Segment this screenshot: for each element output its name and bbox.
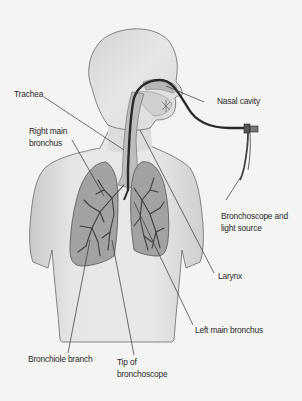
- label-nasal-cavity: Nasal cavity: [217, 95, 260, 107]
- label-left-main-bronchus: Left main bronchus: [195, 324, 263, 336]
- bronchoscopy-diagram: Trachea Right main bronchus Nasal cavity…: [0, 0, 302, 401]
- label-tip-of-bronchoscope-line1: Tip of: [117, 356, 137, 368]
- label-bronchoscope-line2: light source: [221, 222, 262, 234]
- bronchoscope-handle: [240, 124, 258, 180]
- label-trachea: Trachea: [14, 88, 43, 100]
- label-right-main-bronchus-line1: Right main: [29, 125, 67, 137]
- label-bronchiole-branch: Bronchiole branch: [28, 353, 92, 365]
- label-tip-of-bronchoscope-line2: bronchoscope: [117, 368, 167, 380]
- label-bronchoscope-line1: Bronchoscope and: [221, 210, 288, 222]
- label-larynx: Larynx: [218, 270, 242, 282]
- label-right-main-bronchus-line2: bronchus: [29, 137, 62, 149]
- anatomy-illustration: [0, 0, 302, 401]
